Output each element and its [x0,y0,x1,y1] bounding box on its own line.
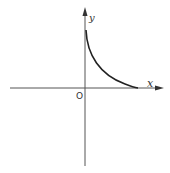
origin-label: O [76,91,83,101]
x-axis-arrow-icon [155,86,164,91]
y-axis-arrow-icon [83,7,88,16]
graph: y x O [0,0,170,173]
x-axis-label: x [147,77,154,90]
y-axis-label: y [88,12,95,23]
decay-curve [86,30,138,88]
